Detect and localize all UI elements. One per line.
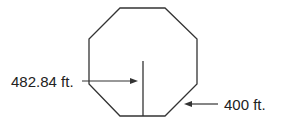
side-label: 400 ft. (224, 97, 266, 112)
apothem-label: 482.84 ft. (11, 74, 74, 89)
apothem-arrowhead (130, 78, 138, 84)
side-arrowhead (184, 101, 192, 107)
